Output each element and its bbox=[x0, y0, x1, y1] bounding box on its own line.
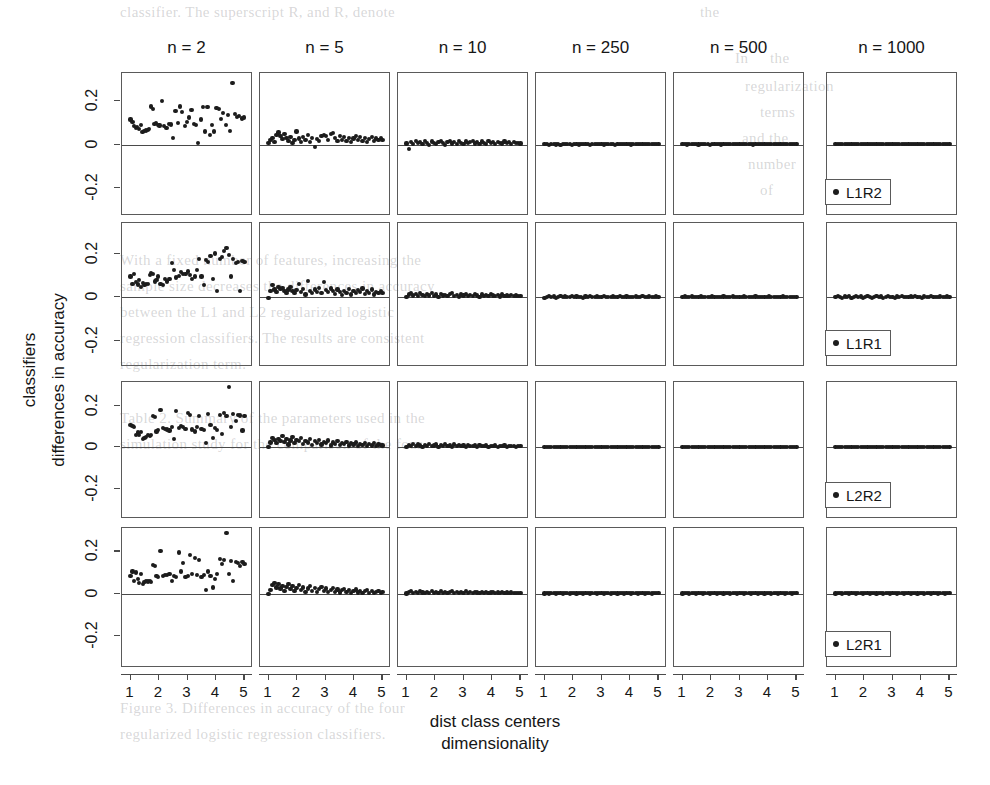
data-point bbox=[169, 122, 173, 126]
data-point bbox=[230, 81, 234, 85]
legend-label: L2R1 bbox=[846, 636, 882, 653]
x-tick-mark bbox=[920, 674, 921, 680]
data-point bbox=[204, 588, 208, 592]
x-tick-mark bbox=[243, 674, 244, 680]
data-point bbox=[174, 409, 178, 413]
legend-L2R2[interactable]: L2R2 bbox=[825, 482, 891, 508]
data-point bbox=[238, 289, 242, 293]
data-point bbox=[210, 123, 214, 127]
data-point bbox=[297, 282, 301, 286]
x-tick-mark bbox=[519, 674, 520, 680]
data-point bbox=[206, 412, 210, 416]
x-tick-mark bbox=[948, 674, 949, 680]
x-tick-label: 2 bbox=[422, 683, 446, 700]
data-point bbox=[153, 415, 157, 419]
x-tick-mark bbox=[130, 674, 131, 680]
data-point bbox=[170, 261, 174, 265]
panel-L2R2-n2 bbox=[121, 381, 252, 518]
legend-L1R2[interactable]: L1R2 bbox=[825, 179, 891, 205]
x-tick-mark bbox=[629, 674, 630, 680]
legend-L1R1[interactable]: L1R1 bbox=[825, 330, 891, 356]
data-point bbox=[220, 562, 224, 566]
data-point bbox=[266, 592, 270, 596]
x-tick-label: 5 bbox=[507, 683, 531, 700]
x-tick-label: 4 bbox=[908, 683, 932, 700]
x-tick-label: 4 bbox=[617, 683, 641, 700]
data-point bbox=[195, 573, 199, 577]
y-tick-mark bbox=[114, 405, 120, 406]
data-point bbox=[242, 414, 246, 418]
panel-L1R1-n250 bbox=[535, 222, 666, 366]
data-point bbox=[158, 408, 162, 412]
y-tick-label: 0 bbox=[83, 424, 101, 468]
x-tick-label: 1 bbox=[823, 683, 847, 700]
data-point bbox=[297, 583, 301, 587]
data-point bbox=[153, 564, 157, 568]
data-point bbox=[158, 549, 162, 553]
panel-L1R2-n2 bbox=[121, 72, 252, 215]
data-point bbox=[360, 286, 364, 290]
data-point bbox=[167, 572, 171, 576]
x-tick-label: 3 bbox=[880, 683, 904, 700]
data-point bbox=[518, 294, 522, 298]
zero-reference-line bbox=[260, 145, 389, 146]
data-point bbox=[208, 254, 212, 258]
x-tick-mark bbox=[739, 674, 740, 680]
data-point bbox=[206, 569, 210, 573]
data-point bbox=[518, 141, 522, 145]
x-tick-mark bbox=[268, 674, 269, 680]
legend-L2R1[interactable]: L2R1 bbox=[825, 631, 891, 657]
data-point bbox=[947, 142, 951, 146]
data-point bbox=[268, 588, 272, 592]
x-tick-mark bbox=[353, 674, 354, 680]
data-point bbox=[156, 428, 160, 432]
x-tick-label: 5 bbox=[783, 683, 807, 700]
data-point bbox=[322, 280, 326, 284]
data-point bbox=[282, 589, 286, 593]
x-tick-label: 2 bbox=[284, 683, 308, 700]
data-point bbox=[229, 425, 233, 429]
data-point bbox=[156, 274, 160, 278]
zero-reference-line bbox=[122, 297, 251, 298]
panel-L2R1-n5 bbox=[259, 527, 390, 667]
column-strip-label-0: n = 2 bbox=[121, 38, 252, 58]
data-point bbox=[211, 436, 215, 440]
data-point bbox=[203, 129, 207, 133]
panel-L1R2-n5 bbox=[259, 72, 390, 215]
data-point bbox=[231, 412, 235, 416]
panel-L1R1-n500 bbox=[673, 222, 804, 366]
x-tick-label: 3 bbox=[589, 683, 613, 700]
y-tick-label: 0 bbox=[83, 571, 101, 615]
panel-L2R2-n5 bbox=[259, 381, 390, 518]
data-point bbox=[272, 140, 276, 144]
data-point bbox=[194, 123, 198, 127]
data-point bbox=[333, 292, 337, 296]
column-strip-label-4: n = 500 bbox=[673, 38, 804, 58]
data-point bbox=[344, 291, 348, 295]
data-point bbox=[171, 136, 175, 140]
data-point bbox=[370, 287, 374, 291]
data-point bbox=[656, 445, 660, 449]
data-point bbox=[199, 117, 203, 121]
data-point bbox=[177, 274, 181, 278]
x-tick-mark bbox=[892, 674, 893, 680]
data-point bbox=[286, 442, 290, 446]
data-point bbox=[128, 574, 132, 578]
legend-label: L1R2 bbox=[846, 184, 882, 201]
data-point bbox=[224, 123, 228, 127]
y-tick-label: 0 bbox=[83, 274, 101, 318]
data-point bbox=[185, 120, 189, 124]
data-point bbox=[242, 115, 246, 119]
data-point bbox=[139, 572, 143, 576]
panel-L2R1-n500 bbox=[673, 527, 804, 667]
data-point bbox=[240, 428, 244, 432]
data-point bbox=[187, 115, 191, 119]
y-tick-label: -0.2 bbox=[83, 318, 101, 362]
panel-L2R1-n250 bbox=[535, 527, 666, 667]
legend-label: L1R1 bbox=[846, 335, 882, 352]
data-point bbox=[656, 295, 660, 299]
x-tick-mark bbox=[795, 674, 796, 680]
zero-reference-line bbox=[122, 594, 251, 595]
data-point bbox=[193, 556, 197, 560]
data-point bbox=[176, 121, 180, 125]
